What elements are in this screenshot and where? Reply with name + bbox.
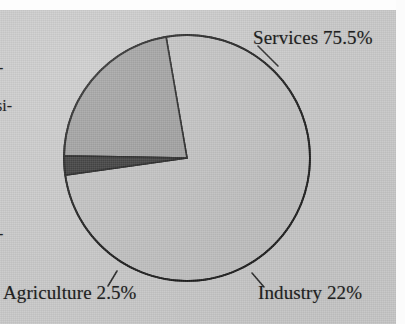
margin-text-fragment-2: si- [0,98,12,114]
pie-label-industry: Industry 22% [258,283,362,302]
pie-chart-svg [0,0,405,324]
pie-slice-group [64,35,310,281]
pie-label-agriculture: Agriculture 2.5% [3,283,137,302]
margin-text-fragment-3: - [0,226,3,242]
margin-text-fragment-1: - [0,60,3,76]
scan-gutter-top [0,0,405,10]
scan-gutter-right [396,0,405,324]
pie-chart [0,0,405,324]
pie-slice-industry [64,37,187,158]
pie-label-services: Services 75.5% [253,28,373,47]
scanned-figure-page: Services 75.5% Industry 22% Agriculture … [0,0,405,324]
